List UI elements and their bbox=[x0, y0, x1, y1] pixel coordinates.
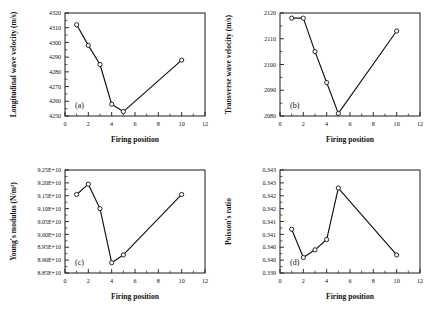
panel-letter: (a) bbox=[75, 101, 84, 110]
data-point-marker bbox=[98, 62, 102, 66]
y-tick-label: 9.20E+10 bbox=[37, 180, 61, 186]
data-point-marker bbox=[301, 16, 305, 20]
x-axis-title: Firing position bbox=[326, 292, 375, 301]
x-tick-label: 12 bbox=[417, 120, 423, 127]
x-tick-label: 0 bbox=[63, 120, 66, 127]
data-point-marker bbox=[121, 253, 125, 257]
x-tick-label: 10 bbox=[394, 120, 400, 127]
y-tick-label: 0.340 bbox=[263, 257, 277, 263]
panel-letter: (c) bbox=[75, 258, 84, 267]
y-tick-label: 4310 bbox=[49, 25, 61, 31]
data-point-marker bbox=[75, 23, 79, 27]
x-tick-label: 4 bbox=[110, 277, 113, 284]
y-axis-title: Young's modulus (N/m²) bbox=[9, 182, 18, 261]
y-tick-label: 2110 bbox=[264, 36, 276, 42]
x-tick-label: 8 bbox=[372, 120, 375, 127]
x-tick-label: 2 bbox=[87, 277, 90, 284]
y-tick-label: 4260 bbox=[49, 98, 61, 104]
x-axis-title: Firing position bbox=[111, 292, 160, 301]
x-tick-label: 0 bbox=[63, 277, 66, 284]
data-point-marker bbox=[290, 227, 294, 231]
y-tick-label: 0.342 bbox=[263, 206, 277, 212]
data-point-marker bbox=[313, 50, 317, 54]
x-tick-label: 10 bbox=[394, 277, 400, 284]
y-tick-label: 0.343 bbox=[263, 180, 277, 186]
data-point-marker bbox=[290, 16, 294, 20]
data-point-marker bbox=[395, 253, 399, 257]
y-tick-label: 4280 bbox=[49, 69, 61, 75]
y-tick-label: 9.25E+10 bbox=[37, 167, 61, 173]
chart-panel-c: 0246810128.85E+108.90E+108.95E+109.00E+1… bbox=[0, 157, 215, 315]
x-tick-label: 12 bbox=[417, 277, 423, 284]
x-tick-label: 2 bbox=[302, 277, 305, 284]
x-tick-label: 4 bbox=[325, 277, 328, 284]
x-tick-label: 0 bbox=[278, 277, 281, 284]
x-tick-label: 8 bbox=[372, 277, 375, 284]
plot-frame bbox=[280, 13, 420, 116]
y-tick-label: 8.95E+10 bbox=[37, 244, 61, 250]
data-point-marker bbox=[121, 109, 125, 113]
y-tick-label: 0.339 bbox=[263, 270, 277, 276]
y-axis-title: Longitudinal wave velocity (m/s) bbox=[9, 11, 18, 117]
y-tick-label: 2080 bbox=[264, 113, 276, 119]
y-axis-title: Poisson's ratio bbox=[224, 198, 233, 245]
data-point-marker bbox=[86, 182, 90, 186]
x-axis-title: Firing position bbox=[326, 135, 375, 144]
x-tick-label: 0 bbox=[278, 120, 281, 127]
x-tick-label: 4 bbox=[110, 120, 113, 127]
data-point-marker bbox=[180, 58, 184, 62]
data-series-line bbox=[77, 184, 182, 263]
y-tick-label: 4250 bbox=[49, 113, 61, 119]
chart-panel-d: 0246810120.3390.3400.3400.3410.3410.3420… bbox=[215, 157, 430, 315]
x-tick-label: 6 bbox=[133, 277, 136, 284]
y-tick-label: 8.85E+10 bbox=[37, 270, 61, 276]
x-axis-title: Firing position bbox=[111, 135, 160, 144]
y-tick-label: 2100 bbox=[264, 62, 276, 68]
x-tick-label: 10 bbox=[179, 120, 185, 127]
data-series-line bbox=[292, 18, 397, 113]
plot-frame bbox=[65, 170, 205, 273]
data-point-marker bbox=[325, 80, 329, 84]
data-point-marker bbox=[336, 186, 340, 190]
data-series-line bbox=[77, 25, 182, 112]
x-tick-label: 2 bbox=[302, 120, 305, 127]
y-tick-label: 9.00E+10 bbox=[37, 232, 61, 238]
y-axis-title: Transverse wave velocity (m/s) bbox=[224, 14, 233, 114]
y-tick-label: 4290 bbox=[49, 54, 61, 60]
data-point-marker bbox=[325, 237, 329, 241]
x-tick-label: 8 bbox=[157, 277, 160, 284]
x-tick-label: 6 bbox=[133, 120, 136, 127]
y-tick-label: 0.341 bbox=[263, 232, 277, 238]
panel-letter: (b) bbox=[290, 101, 300, 110]
x-tick-label: 8 bbox=[157, 120, 160, 127]
x-tick-label: 12 bbox=[202, 277, 208, 284]
data-point-marker bbox=[110, 261, 114, 265]
data-point-marker bbox=[301, 255, 305, 259]
y-tick-label: 2120 bbox=[264, 10, 276, 16]
x-tick-label: 4 bbox=[325, 120, 328, 127]
y-tick-label: 0.343 bbox=[263, 167, 277, 173]
y-tick-label: 0.341 bbox=[263, 219, 277, 225]
x-tick-label: 6 bbox=[348, 120, 351, 127]
data-point-marker bbox=[180, 192, 184, 196]
panel-letter: (d) bbox=[290, 258, 300, 267]
data-point-marker bbox=[75, 192, 79, 196]
y-tick-label: 0.342 bbox=[263, 193, 277, 199]
x-tick-label: 6 bbox=[348, 277, 351, 284]
data-point-marker bbox=[110, 102, 114, 106]
data-point-marker bbox=[395, 29, 399, 33]
y-tick-label: 4320 bbox=[49, 10, 61, 16]
y-tick-label: 9.10E+10 bbox=[37, 206, 61, 212]
y-tick-label: 2090 bbox=[264, 87, 276, 93]
x-tick-label: 2 bbox=[87, 120, 90, 127]
data-point-marker bbox=[86, 43, 90, 47]
y-tick-label: 9.05E+10 bbox=[37, 219, 61, 225]
figure-container: 0246810124250426042704280429043004310432… bbox=[0, 0, 430, 315]
chart-panel-a: 0246810124250426042704280429043004310432… bbox=[0, 0, 215, 158]
y-tick-label: 0.340 bbox=[263, 244, 277, 250]
chart-panel-b: 02468101220802090210021102120(b)Firing p… bbox=[215, 0, 430, 158]
x-tick-label: 10 bbox=[179, 277, 185, 284]
data-point-marker bbox=[313, 248, 317, 252]
data-point-marker bbox=[98, 207, 102, 211]
y-tick-label: 9.15E+10 bbox=[37, 193, 61, 199]
